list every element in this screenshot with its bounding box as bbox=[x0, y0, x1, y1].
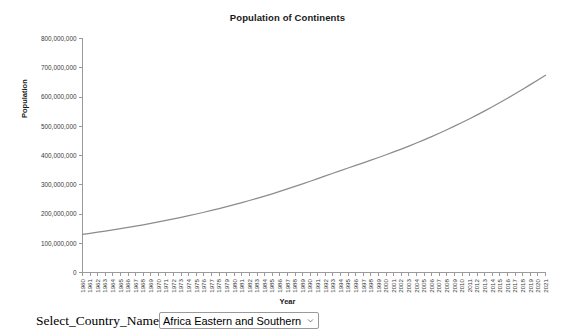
svg-text:1968: 1968 bbox=[139, 278, 146, 292]
svg-text:1991: 1991 bbox=[314, 278, 321, 292]
svg-text:1976: 1976 bbox=[200, 278, 207, 292]
svg-text:1986: 1986 bbox=[276, 278, 283, 292]
svg-text:1983: 1983 bbox=[253, 278, 260, 292]
svg-text:2003: 2003 bbox=[405, 278, 412, 292]
svg-text:1984: 1984 bbox=[261, 278, 268, 292]
svg-text:1997: 1997 bbox=[360, 278, 367, 292]
svg-text:500,000,000: 500,000,000 bbox=[41, 123, 77, 130]
population-chart-app: Population of Continents Population Year… bbox=[0, 0, 575, 332]
svg-text:1988: 1988 bbox=[291, 278, 298, 292]
svg-text:1993: 1993 bbox=[329, 278, 336, 292]
svg-text:2006: 2006 bbox=[428, 278, 435, 292]
svg-text:2004: 2004 bbox=[413, 278, 420, 292]
svg-text:2013: 2013 bbox=[481, 278, 488, 292]
svg-text:800,000,000: 800,000,000 bbox=[41, 35, 77, 42]
svg-text:400,000,000: 400,000,000 bbox=[41, 152, 77, 159]
svg-text:2019: 2019 bbox=[527, 278, 534, 292]
select-country-label: Select_Country_Name bbox=[36, 313, 159, 329]
svg-text:1966: 1966 bbox=[124, 278, 131, 292]
svg-text:2008: 2008 bbox=[443, 278, 450, 292]
svg-text:2021: 2021 bbox=[542, 278, 549, 292]
svg-text:2009: 2009 bbox=[451, 278, 458, 292]
svg-text:1970: 1970 bbox=[155, 278, 162, 292]
svg-text:1965: 1965 bbox=[117, 278, 124, 292]
svg-text:1981: 1981 bbox=[238, 278, 245, 292]
svg-text:2014: 2014 bbox=[489, 278, 496, 292]
svg-text:1996: 1996 bbox=[352, 278, 359, 292]
svg-text:1990: 1990 bbox=[306, 278, 313, 292]
svg-text:1962: 1962 bbox=[94, 278, 101, 292]
svg-text:2011: 2011 bbox=[466, 278, 473, 292]
svg-text:1973: 1973 bbox=[177, 278, 184, 292]
svg-text:2005: 2005 bbox=[420, 278, 427, 292]
plot-area: 0100,000,000200,000,000300,000,000400,00… bbox=[0, 0, 575, 305]
svg-text:2018: 2018 bbox=[519, 278, 526, 292]
svg-text:300,000,000: 300,000,000 bbox=[41, 181, 77, 188]
svg-text:1960: 1960 bbox=[79, 278, 86, 292]
svg-text:1977: 1977 bbox=[208, 278, 215, 292]
svg-text:1987: 1987 bbox=[284, 278, 291, 292]
svg-text:1967: 1967 bbox=[132, 278, 139, 292]
svg-text:2015: 2015 bbox=[496, 278, 503, 292]
svg-text:2012: 2012 bbox=[473, 278, 480, 292]
svg-text:2001: 2001 bbox=[390, 278, 397, 292]
svg-text:2002: 2002 bbox=[397, 278, 404, 292]
svg-text:1978: 1978 bbox=[215, 278, 222, 292]
svg-text:1998: 1998 bbox=[367, 278, 374, 292]
country-selector-row: Select_Country_Name Africa Eastern and S… bbox=[0, 309, 575, 332]
svg-text:1999: 1999 bbox=[375, 278, 382, 292]
country-select-box[interactable]: Africa Eastern and Southern bbox=[159, 312, 319, 329]
svg-text:200,000,000: 200,000,000 bbox=[41, 210, 77, 217]
svg-text:1972: 1972 bbox=[170, 278, 177, 292]
svg-text:1975: 1975 bbox=[193, 278, 200, 292]
svg-text:1982: 1982 bbox=[246, 278, 253, 292]
svg-text:1961: 1961 bbox=[86, 278, 93, 292]
svg-text:0: 0 bbox=[73, 269, 77, 276]
svg-text:2020: 2020 bbox=[534, 278, 541, 292]
svg-text:1974: 1974 bbox=[185, 278, 192, 292]
svg-text:2010: 2010 bbox=[458, 278, 465, 292]
svg-text:2016: 2016 bbox=[504, 278, 511, 292]
svg-text:1980: 1980 bbox=[231, 278, 238, 292]
svg-text:1992: 1992 bbox=[322, 278, 329, 292]
svg-text:100,000,000: 100,000,000 bbox=[41, 240, 77, 247]
svg-text:1989: 1989 bbox=[299, 278, 306, 292]
svg-text:700,000,000: 700,000,000 bbox=[41, 64, 77, 71]
svg-text:1963: 1963 bbox=[101, 278, 108, 292]
svg-text:1971: 1971 bbox=[162, 278, 169, 292]
svg-text:600,000,000: 600,000,000 bbox=[41, 93, 77, 100]
svg-text:2017: 2017 bbox=[511, 278, 518, 292]
country-select[interactable]: Africa Eastern and Southern bbox=[159, 312, 319, 329]
chart-container: Population of Continents Population Year… bbox=[0, 0, 575, 305]
svg-text:2007: 2007 bbox=[435, 278, 442, 292]
svg-text:1964: 1964 bbox=[109, 278, 116, 292]
svg-text:1995: 1995 bbox=[344, 278, 351, 292]
svg-text:2000: 2000 bbox=[382, 278, 389, 292]
svg-text:1994: 1994 bbox=[337, 278, 344, 292]
svg-text:1979: 1979 bbox=[223, 278, 230, 292]
svg-text:1969: 1969 bbox=[147, 278, 154, 292]
svg-text:1985: 1985 bbox=[268, 278, 275, 292]
